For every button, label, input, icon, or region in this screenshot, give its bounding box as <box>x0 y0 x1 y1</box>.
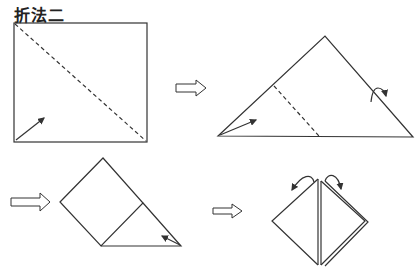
open-flap-arrow-icon <box>292 176 314 190</box>
next-step-arrow-icon <box>11 193 50 211</box>
fold-arrow-icon <box>162 236 180 245</box>
fold-arrow-icon <box>16 118 44 140</box>
step-1-square <box>14 23 147 142</box>
step-2-triangle <box>218 36 413 137</box>
fold-arrow-icon <box>220 120 256 135</box>
step-3-shape <box>60 158 181 246</box>
flip-arrow-icon <box>371 88 386 102</box>
step-4-diamond <box>272 175 368 266</box>
next-step-arrow-icon <box>213 204 242 218</box>
next-step-arrow-icon <box>176 80 206 96</box>
folding-diagram <box>0 0 420 274</box>
